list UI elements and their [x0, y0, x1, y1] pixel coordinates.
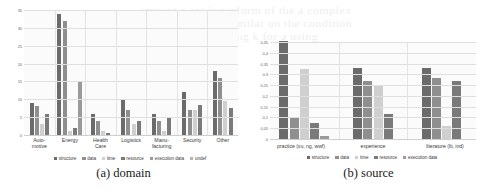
- x-axis-label: Logistics: [116, 137, 147, 149]
- plot-area-source: 00,050,10,150,20,250,30,350,40,45: [270, 42, 476, 139]
- x-axis-label-line: practice (xu, ng, wwf): [265, 143, 337, 149]
- gridline: [24, 64, 238, 65]
- legend-item-execution-data[interactable]: execution data: [150, 156, 184, 161]
- gridline: [270, 107, 476, 108]
- group-separator: [339, 42, 340, 139]
- gridline: [24, 46, 238, 47]
- x-axis-labels-source: practice (xu, ng, wwf)experienceliteratu…: [265, 143, 481, 149]
- legend-item-undef[interactable]: undef: [190, 156, 206, 161]
- y-axis-tick-label: 0,2: [263, 93, 270, 98]
- gridline: [270, 74, 476, 75]
- legend-label: structure: [59, 156, 76, 161]
- bar-execution-data-1: [78, 81, 82, 135]
- bar-resource-6: [229, 108, 233, 135]
- gridline: [270, 96, 476, 97]
- x-axis-label: Manu-facturing: [146, 137, 177, 149]
- bar-resource-0: [310, 123, 319, 139]
- bar-data-2: [96, 121, 100, 135]
- legend-label: time: [360, 155, 368, 160]
- x-axis-label-line: Care: [85, 143, 116, 149]
- x-axis-labels-domain: Auto-motiveEnergyHealthCareLogisticsManu…: [24, 137, 238, 149]
- y-axis-tick-label: 0: [266, 137, 270, 142]
- bar-structure-6: [213, 71, 217, 135]
- caption-source: (b) source: [247, 166, 490, 181]
- y-axis-tick-label: 30: [18, 25, 24, 30]
- legend-swatch-icon: [190, 157, 193, 160]
- y-axis-tick-label: 15: [18, 79, 24, 84]
- y-axis-tick-label: 25: [18, 43, 24, 48]
- legend-item-time[interactable]: time: [102, 156, 115, 161]
- bar-resource-4: [167, 117, 171, 135]
- bar-resource-1: [73, 128, 77, 135]
- bar-data-5: [188, 110, 192, 135]
- bar-data-4: [157, 121, 161, 135]
- y-axis-tick-label: 35: [18, 8, 24, 13]
- legend-item-structure[interactable]: structure: [54, 156, 76, 161]
- legend-item-resource[interactable]: resource: [374, 155, 396, 160]
- panel-domain: 05101520253035 Auto-motiveEnergyHealthCa…: [0, 0, 247, 192]
- bar-time-0: [40, 124, 44, 135]
- group-separator: [207, 10, 208, 135]
- x-axis-label-line: facturing: [146, 143, 177, 149]
- bar-time-5: [193, 110, 197, 135]
- group-separator: [55, 10, 56, 135]
- group-separator: [85, 10, 86, 135]
- x-axis-label-line: literature (lit, ind): [409, 143, 481, 149]
- caption-domain: (a) domain: [0, 166, 247, 181]
- gridline: [270, 117, 476, 118]
- y-axis-tick-label: 10: [18, 97, 24, 102]
- legend-label: structure: [312, 155, 329, 160]
- legend-label: execution data: [155, 156, 184, 161]
- x-axis-label-line: motive: [24, 143, 55, 149]
- legend-swatch-icon: [102, 157, 105, 160]
- gridline: [270, 53, 476, 54]
- group-separator: [177, 10, 178, 135]
- bar-group: [407, 42, 476, 139]
- gridline: [24, 117, 238, 118]
- bar-structure-0: [279, 41, 288, 139]
- legend-label: time: [107, 156, 115, 161]
- legend-swatch-icon: [403, 156, 406, 159]
- y-axis-tick-label: 0,05: [260, 126, 270, 131]
- y-axis-tick-label: 5: [20, 115, 24, 120]
- bar-time-1: [374, 85, 383, 139]
- bar-group: [270, 42, 339, 139]
- legend-label: resource: [126, 156, 143, 161]
- bar-data-6: [218, 78, 222, 135]
- bar-data-0: [35, 106, 39, 135]
- x-axis-label: HealthCare: [85, 137, 116, 149]
- legend-swatch-icon: [355, 156, 358, 159]
- bar-group: [339, 42, 408, 139]
- bar-resource-3: [137, 121, 141, 135]
- y-axis-tick-label: 0,35: [260, 61, 270, 66]
- legend-item-data[interactable]: data: [82, 156, 96, 161]
- legend-swatch-icon: [121, 157, 124, 160]
- bar-resource-2: [452, 81, 461, 139]
- x-axis-label: Energy: [55, 137, 86, 149]
- x-axis-label-line: Other: [207, 137, 238, 143]
- y-axis-tick-label: 0,1: [263, 115, 270, 120]
- figure-container: 05101520253035 Auto-motiveEnergyHealthCa…: [0, 0, 490, 192]
- bar-groups-source: [270, 42, 476, 139]
- legend-item-time[interactable]: time: [355, 155, 368, 160]
- y-axis-tick-label: 0,4: [263, 50, 270, 55]
- legend-item-structure[interactable]: structure: [307, 155, 329, 160]
- legend-label: execution data: [408, 155, 437, 160]
- x-axis-label-line: Logistics: [116, 137, 147, 143]
- gridline: [270, 85, 476, 86]
- x-axis-line: [270, 139, 476, 140]
- legend-item-execution-data[interactable]: execution data: [403, 155, 437, 160]
- legend-swatch-icon: [374, 156, 377, 159]
- bar-resource-5: [198, 105, 202, 135]
- group-separator: [146, 10, 147, 135]
- legend-domain: structuredatatimeresourceexecution datau…: [14, 156, 246, 161]
- legend-label: resource: [379, 155, 396, 160]
- bar-data-1: [363, 81, 372, 139]
- x-axis-label: Auto-motive: [24, 137, 55, 149]
- gridline: [24, 81, 238, 82]
- x-axis-line: [24, 135, 238, 136]
- legend-item-resource[interactable]: resource: [121, 156, 143, 161]
- legend-item-data[interactable]: data: [335, 155, 349, 160]
- bar-structure-0: [30, 103, 34, 135]
- x-axis-label: literature (lit, ind): [409, 143, 481, 149]
